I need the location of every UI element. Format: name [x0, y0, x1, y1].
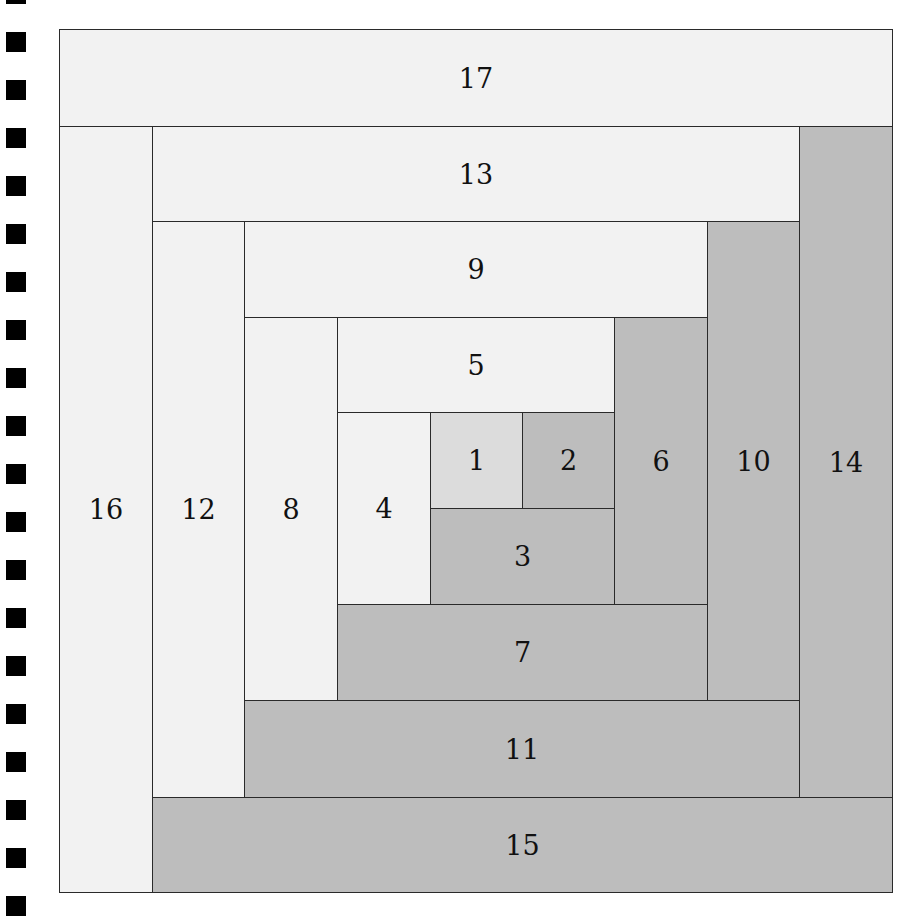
piece-number: 6: [652, 446, 669, 477]
quilt-piece-5: 5: [337, 317, 615, 413]
piece-number: 8: [282, 494, 299, 525]
binding-hole-marker: [6, 128, 26, 148]
binding-hole-marker: [6, 656, 26, 676]
binding-hole-marker: [6, 848, 26, 868]
piece-number: 4: [375, 493, 392, 524]
binding-hole-marker: [6, 560, 26, 580]
binding-hole-marker: [6, 176, 26, 196]
binding-hole-marker: [6, 464, 26, 484]
piece-number: 16: [89, 494, 123, 525]
piece-number: 2: [560, 445, 577, 476]
binding-hole-marker: [6, 512, 26, 532]
binding-hole-marker: [6, 368, 26, 388]
piece-number: 15: [505, 830, 539, 861]
binding-hole-marker: [6, 704, 26, 724]
binding-hole-marker: [6, 608, 26, 628]
quilt-piece-1: 1: [430, 412, 523, 509]
piece-number: 11: [505, 734, 539, 765]
quilt-piece-17: 17: [59, 29, 893, 127]
piece-number: 7: [514, 637, 531, 668]
quilt-piece-2: 2: [522, 412, 615, 509]
piece-number: 10: [736, 446, 770, 477]
binding-hole-marker: [6, 32, 26, 52]
quilt-piece-16: 16: [59, 126, 153, 893]
binding-hole-marker: [6, 224, 26, 244]
quilt-piece-6: 6: [614, 317, 708, 605]
quilt-piece-13: 13: [152, 126, 800, 222]
piece-number: 14: [829, 447, 863, 478]
quilt-piece-9: 9: [244, 221, 708, 318]
binding-hole-marker: [6, 320, 26, 340]
binding-hole-marker: [6, 0, 26, 4]
binding-hole-marker: [6, 896, 26, 916]
quilt-piece-10: 10: [707, 221, 800, 701]
piece-number: 13: [459, 159, 493, 190]
log-cabin-diagram: 1234567891011121314151617: [59, 29, 892, 892]
piece-number: 1: [468, 445, 485, 476]
quilt-piece-3: 3: [430, 508, 615, 605]
piece-number: 3: [514, 541, 531, 572]
binding-hole-marker: [6, 416, 26, 436]
quilt-piece-4: 4: [337, 412, 431, 605]
quilt-piece-12: 12: [152, 221, 245, 798]
piece-number: 5: [467, 350, 484, 381]
quilt-piece-11: 11: [244, 700, 800, 798]
quilt-piece-14: 14: [799, 126, 893, 798]
piece-number: 12: [181, 494, 215, 525]
binding-hole-marker: [6, 272, 26, 292]
binding-hole-marker: [6, 800, 26, 820]
quilt-piece-15: 15: [152, 797, 893, 893]
piece-number: 17: [459, 63, 493, 94]
quilt-piece-8: 8: [244, 317, 338, 701]
binding-hole-marker: [6, 752, 26, 772]
quilt-piece-7: 7: [337, 604, 708, 701]
piece-number: 9: [467, 254, 484, 285]
binding-hole-marker: [6, 80, 26, 100]
